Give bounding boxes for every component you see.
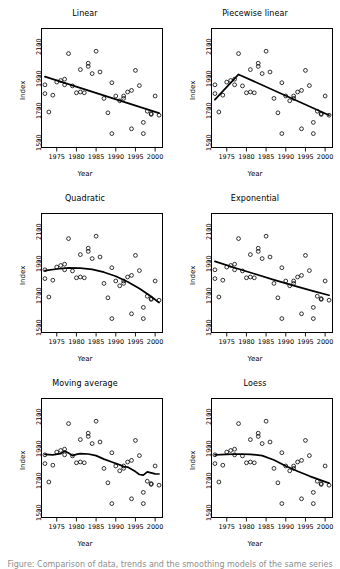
data-point xyxy=(59,264,63,268)
data-point xyxy=(106,111,110,115)
data-point xyxy=(102,97,106,101)
data-point xyxy=(145,479,149,483)
panel-title: Loess xyxy=(170,379,340,388)
panel-title: Exponential xyxy=(170,194,340,203)
y-axis-label: Index xyxy=(19,451,27,470)
x-tick-label: 1995 xyxy=(294,523,316,531)
data-point xyxy=(94,49,98,53)
x-tick-label: 1995 xyxy=(124,338,146,346)
data-point xyxy=(280,317,284,321)
data-point xyxy=(292,94,296,98)
x-tick-label: 1980 xyxy=(65,523,87,531)
data-point xyxy=(130,312,134,316)
data-point xyxy=(114,279,118,283)
data-point xyxy=(280,132,284,136)
data-point xyxy=(237,237,241,241)
data-point xyxy=(315,294,319,298)
data-point xyxy=(141,121,145,125)
plot-panel-exponential: Exponential19751980198519901995200015001… xyxy=(170,185,340,370)
data-layer xyxy=(41,213,163,333)
data-point xyxy=(67,52,71,56)
data-layer xyxy=(41,28,163,148)
data-point xyxy=(280,502,284,506)
x-tick-label: 2000 xyxy=(144,153,166,161)
x-axis-label: Year xyxy=(0,355,170,363)
panel-title: Quadratic xyxy=(0,194,170,203)
data-point xyxy=(51,93,55,97)
data-point xyxy=(90,442,94,446)
data-point xyxy=(311,121,315,125)
data-point xyxy=(268,255,272,259)
panel-title: Piecewise linear xyxy=(170,9,340,18)
x-axis-label: Year xyxy=(170,355,340,363)
data-point xyxy=(67,422,71,426)
data-point xyxy=(153,94,157,98)
data-point xyxy=(110,81,114,85)
data-point xyxy=(288,469,292,473)
data-point xyxy=(78,438,82,442)
x-tick-label: 1995 xyxy=(294,338,316,346)
data-point xyxy=(71,269,75,273)
data-layer xyxy=(211,398,333,518)
data-point xyxy=(300,89,304,93)
data-point xyxy=(307,454,311,458)
data-point xyxy=(75,276,79,280)
fit-curve xyxy=(45,77,159,113)
data-point xyxy=(311,317,315,321)
data-point xyxy=(213,462,217,466)
data-point xyxy=(323,94,327,98)
data-point xyxy=(264,49,268,53)
y-axis-label: Index xyxy=(19,266,27,285)
x-tick-label: 1980 xyxy=(235,153,257,161)
data-point xyxy=(78,90,82,94)
data-point xyxy=(248,460,252,464)
data-point xyxy=(137,269,141,273)
data-point xyxy=(237,422,241,426)
data-point xyxy=(233,83,237,87)
data-point xyxy=(260,72,264,76)
data-point xyxy=(304,254,308,258)
data-point xyxy=(67,237,71,241)
data-point xyxy=(98,255,102,259)
data-point xyxy=(323,279,327,283)
data-point xyxy=(245,461,249,465)
data-point xyxy=(233,447,237,451)
data-point xyxy=(110,451,114,455)
data-point xyxy=(311,132,315,136)
data-point xyxy=(307,84,311,88)
data-point xyxy=(130,274,134,278)
data-point xyxy=(82,91,86,95)
x-tick-label: 2000 xyxy=(314,338,336,346)
data-point xyxy=(102,282,106,286)
data-point xyxy=(260,257,264,261)
data-point xyxy=(130,497,134,501)
x-tick-label: 1980 xyxy=(65,153,87,161)
data-point xyxy=(272,282,276,286)
data-point xyxy=(122,94,126,98)
data-point xyxy=(213,83,217,87)
data-point xyxy=(82,276,86,280)
data-point xyxy=(141,491,145,495)
data-point xyxy=(213,268,217,272)
x-tick-label: 1995 xyxy=(124,153,146,161)
data-point xyxy=(245,91,249,95)
data-point xyxy=(307,269,311,273)
data-point xyxy=(141,132,145,136)
data-point xyxy=(217,480,221,484)
data-point xyxy=(276,111,280,115)
data-layer xyxy=(41,398,163,518)
data-point xyxy=(225,450,229,454)
data-point xyxy=(311,306,315,310)
data-point xyxy=(272,467,276,471)
data-point xyxy=(47,480,51,484)
fit-curve xyxy=(215,261,329,295)
data-point xyxy=(300,459,304,463)
data-point xyxy=(323,464,327,468)
data-point xyxy=(43,277,47,281)
data-point xyxy=(304,69,308,73)
data-point xyxy=(311,491,315,495)
x-tick-label: 2000 xyxy=(144,338,166,346)
data-point xyxy=(110,502,114,506)
data-point xyxy=(63,262,67,266)
data-point xyxy=(78,460,82,464)
